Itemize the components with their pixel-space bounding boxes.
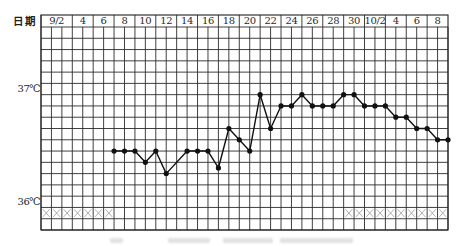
date-header-label: 10	[135, 15, 156, 27]
chart-border	[41, 15, 448, 230]
data-point	[226, 126, 231, 131]
data-point	[362, 103, 367, 108]
data-point	[164, 171, 169, 176]
date-header-label: 26	[302, 15, 323, 27]
caption-blur-segment	[280, 238, 353, 243]
cross-mark-icon	[398, 209, 405, 217]
data-point	[132, 148, 137, 153]
date-header-label: 14	[177, 15, 198, 27]
date-header-label: 4	[72, 15, 93, 27]
figure-caption-faded	[100, 237, 360, 245]
cross-mark-icon	[387, 209, 394, 217]
date-header-label: 8	[114, 15, 135, 27]
temperature-tick-label: 37℃	[8, 83, 40, 95]
data-point	[258, 92, 263, 97]
caption-blur-segment	[110, 238, 123, 243]
cross-mark-icon	[408, 209, 415, 217]
caption-blur-segment	[223, 238, 273, 243]
data-point	[111, 148, 116, 153]
grid-lines	[41, 27, 448, 230]
cross-mark-icon	[74, 209, 81, 217]
cross-mark-icon	[439, 209, 446, 217]
data-point	[299, 92, 304, 97]
data-point	[320, 103, 325, 108]
data-point	[425, 126, 430, 131]
cross-mark-icon	[345, 209, 352, 217]
data-point	[268, 126, 273, 131]
date-header-label: 4	[385, 15, 406, 27]
date-header-label: 10/2	[365, 15, 386, 27]
data-point	[216, 165, 221, 170]
basal-body-temperature-chart: 日期 9/2468101214161820222426283010/2468 3…	[0, 0, 461, 246]
date-header-label: 30	[344, 15, 365, 27]
data-point	[404, 115, 409, 120]
date-header-label: 12	[156, 15, 177, 27]
cross-mark-icon	[105, 209, 112, 217]
date-header-label: 6	[406, 15, 427, 27]
cross-mark-icon	[429, 209, 436, 217]
data-point	[310, 103, 315, 108]
data-point	[351, 92, 356, 97]
data-point	[205, 148, 210, 153]
data-point	[289, 103, 294, 108]
date-header-label: 6	[93, 15, 114, 27]
cross-mark-icon	[43, 209, 50, 217]
cross-mark-icon	[366, 209, 373, 217]
cross-mark-icon	[377, 209, 384, 217]
cross-mark-icon	[418, 209, 425, 217]
date-header-label: 28	[323, 15, 344, 27]
data-point	[445, 137, 450, 142]
data-point	[278, 103, 283, 108]
date-header-label: 18	[218, 15, 239, 27]
date-header-label: 24	[281, 15, 302, 27]
date-header-label: 9/2	[41, 15, 72, 27]
data-point	[383, 103, 388, 108]
chart-plot-area	[0, 0, 461, 246]
data-point	[435, 137, 440, 142]
data-point	[122, 148, 127, 153]
data-point	[153, 148, 158, 153]
cross-mark-icon	[53, 209, 60, 217]
data-point	[237, 137, 242, 142]
data-point	[341, 92, 346, 97]
cross-mark-icon	[356, 209, 363, 217]
date-header-label: 22	[260, 15, 281, 27]
cross-mark-icon	[95, 209, 102, 217]
data-point	[143, 160, 148, 165]
data-point	[195, 148, 200, 153]
data-point	[331, 103, 336, 108]
cross-mark-icon	[85, 209, 92, 217]
date-row-label: 日期	[13, 15, 41, 27]
data-point	[393, 115, 398, 120]
data-point	[414, 126, 419, 131]
date-header-label: 20	[239, 15, 260, 27]
caption-blur-segment	[168, 238, 210, 243]
data-point	[247, 148, 252, 153]
cross-mark-icon	[64, 209, 71, 217]
date-header-label: 16	[198, 15, 219, 27]
data-point	[185, 148, 190, 153]
temperature-tick-label: 36℃	[8, 196, 40, 208]
data-point	[372, 103, 377, 108]
date-header-label: 8	[427, 15, 448, 27]
